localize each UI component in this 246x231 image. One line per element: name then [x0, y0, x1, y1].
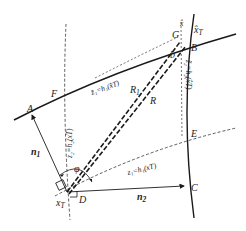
- label-xT: xT: [55, 197, 65, 210]
- label-D: D: [78, 194, 87, 205]
- dashed-line-G-E: [181, 22, 182, 138]
- label-R: R: [149, 95, 156, 106]
- curve-z1-true: [55, 128, 236, 196]
- label-R1: R1: [129, 84, 140, 97]
- curve-z1-estimated: [14, 34, 236, 120]
- right-angle-mark-left: [56, 180, 67, 191]
- label-C: C: [191, 182, 198, 193]
- label-phi: φ: [74, 163, 80, 174]
- label-n2: n2: [137, 191, 147, 204]
- label-b: b: [170, 49, 175, 60]
- label-curve-z2-estimated: z̃₂=h₂(x̂T): [184, 59, 193, 90]
- dashed-line-upper: [95, 38, 176, 78]
- label-E: E: [190, 128, 197, 139]
- angle-phi-arrow-right: [89, 179, 92, 182]
- label-B: B: [191, 42, 197, 53]
- label-curve-z1-estimated: z̃₁=h₁(x̂T): [89, 78, 121, 97]
- label-F: F: [50, 88, 58, 99]
- label-x-hat: x̂: [179, 19, 184, 28]
- label-xT-hat: x̂T: [193, 24, 203, 37]
- label-n1: n1: [31, 146, 40, 159]
- label-A: A: [26, 103, 34, 114]
- label-G: G: [172, 29, 179, 40]
- line-R1: [67, 42, 180, 192]
- label-curve-z1-true: z₁=h₁(xT): [125, 161, 157, 177]
- label-curve-z2-true: z₂=h₂(xT): [65, 128, 74, 159]
- vector-n2: [67, 186, 184, 192]
- positioning-geometry-diagram: A F B G E C D φ R1 R b n1 n2 xT x̂T x̂ z…: [0, 0, 246, 231]
